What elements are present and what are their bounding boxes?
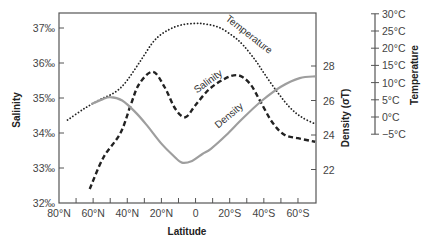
x-tick-label: 0: [193, 207, 199, 219]
x-tick-label: 40°S: [252, 207, 275, 219]
temperature-tick-label: 30°C: [382, 8, 406, 20]
salinity-tick-label: 33‰: [33, 162, 56, 174]
curve-label-density: Density: [212, 100, 245, 130]
chart: 37‰36‰35‰34‰33‰32‰2826242280°N60°N40°N20…: [0, 0, 429, 241]
series-line-temperature: [68, 23, 316, 124]
salinity-tick-label: 36‰: [33, 57, 56, 69]
x-tick-label: 20°N: [150, 207, 173, 219]
temperature-tick-label: 20°C: [382, 42, 406, 54]
temperature-tick-label: 10°C: [382, 77, 406, 89]
x-tick-label: 60°N: [81, 207, 104, 219]
y-axis-title-temperature: Temperature: [409, 45, 420, 105]
x-tick-label: 40°N: [116, 207, 139, 219]
y-axis-title-density: Density (σT): [340, 89, 351, 148]
temperature-tick-label: 5°C: [382, 94, 400, 106]
temperature-tick-label: 25°C: [382, 25, 406, 37]
x-axis-title: Latitude: [168, 226, 207, 237]
temperature-tick-label: 15°C: [382, 59, 406, 71]
x-tick-label: 60°S: [287, 207, 310, 219]
temperature-tick-label: −5°C: [382, 128, 406, 140]
salinity-tick-label: 37‰: [33, 22, 56, 34]
y-axis-title-salinity: Salinity: [11, 92, 22, 128]
temperature-tick-label: 0°C: [382, 111, 400, 123]
density-tick-label: 22: [323, 164, 335, 176]
density-tick-label: 28: [323, 60, 335, 72]
salinity-tick-label: 34‰: [33, 127, 56, 139]
x-tick-label: 20°S: [218, 207, 241, 219]
salinity-tick-label: 35‰: [33, 92, 56, 104]
density-tick-label: 26: [323, 95, 335, 107]
x-tick-label: 80°N: [47, 207, 70, 219]
density-tick-label: 24: [323, 129, 335, 141]
plot-frame: [59, 13, 316, 203]
